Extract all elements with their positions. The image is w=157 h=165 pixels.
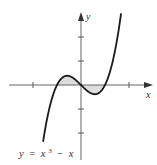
curve-x-cubed-minus-x bbox=[43, 13, 121, 141]
y-axis-label: y bbox=[85, 11, 91, 22]
equation-lhs: y bbox=[18, 148, 24, 159]
equation-exponent: 3 bbox=[48, 147, 52, 155]
cubic-function-graph: y x y = x 3 − x bbox=[0, 0, 157, 165]
equation-x: x bbox=[40, 148, 46, 159]
equation-label: y = x 3 − x bbox=[16, 144, 76, 160]
y-axis-arrow-icon bbox=[78, 12, 84, 21]
x-axis-label: x bbox=[145, 89, 151, 100]
x-axis-arrow-icon bbox=[144, 82, 153, 88]
equation-minus: − bbox=[57, 148, 63, 159]
equation-equals: = bbox=[29, 148, 35, 159]
equation-x2: x bbox=[68, 148, 74, 159]
